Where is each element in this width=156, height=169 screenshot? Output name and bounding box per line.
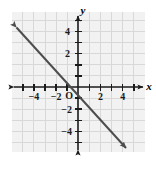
origin-label: O [65, 90, 73, 101]
x-tick-label-neg2: −2 [51, 91, 62, 102]
y-tick-label-4: 4 [65, 26, 70, 37]
coordinate-plane-svg: −4 −2 2 4 4 2 −2 −4 O x y [0, 0, 156, 169]
coordinate-plane-figure: −4 −2 2 4 4 2 −2 −4 O x y [0, 0, 156, 169]
y-tick-label-2: 2 [65, 48, 70, 59]
x-axis-label: x [145, 80, 152, 92]
y-axis-label: y [79, 4, 86, 16]
graph-screenshot: −4 −2 2 4 4 2 −2 −4 O x y [0, 0, 156, 169]
x-tick-label-4: 4 [120, 91, 125, 102]
x-tick-label-2: 2 [98, 91, 103, 102]
y-tick-label-neg4: −4 [61, 126, 72, 137]
x-tick-label-neg4: −4 [29, 91, 40, 102]
y-tick-label-neg2: −2 [61, 104, 72, 115]
